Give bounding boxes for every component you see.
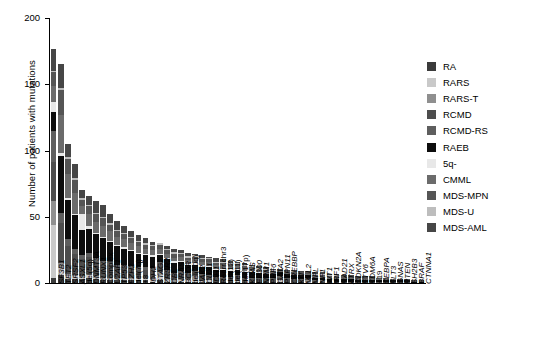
legend-swatch <box>427 110 436 119</box>
bar-segment-mds-aml <box>72 164 78 179</box>
bar-segment-mds-aml <box>65 144 71 157</box>
legend-swatch <box>427 223 436 232</box>
legend-label: MDS-AML <box>443 222 487 233</box>
bar-segment-cmml <box>128 243 134 250</box>
bar-segment-mds-aml <box>79 190 85 198</box>
bar-tet2 <box>58 64 64 283</box>
legend-item: RARS-T <box>427 90 549 106</box>
legend-item: MDS-U <box>427 204 549 220</box>
bar-segment-mds-mpn <box>58 90 64 115</box>
legend-item: MDS-AML <box>427 220 549 236</box>
bar-segment-cmml <box>51 86 57 102</box>
legend-swatch <box>427 207 436 216</box>
bar-segment-cmml <box>114 237 120 245</box>
x-tick-label: CTNNA1 <box>424 252 433 284</box>
bar-segment-raeb <box>86 229 92 253</box>
legend: RARARSRARS-TRCMDRCMD-RSRAEB5q-CMMLMDS-MP… <box>427 58 549 236</box>
bar-segment-ra <box>51 278 57 283</box>
legend-label: RAEB <box>443 142 469 153</box>
legend-item: MDS-MPN <box>427 188 549 204</box>
bar-segment-mds-aml <box>107 214 113 223</box>
legend-swatch <box>427 143 436 152</box>
legend-item: RA <box>427 58 549 74</box>
bar-segment-rcmd <box>58 223 64 263</box>
legend-swatch <box>427 191 436 200</box>
x-axis-tick-labels: SF3B1TET2SRSF2ASXL1del(5q)DNMT3ARUNX1Com… <box>50 284 430 357</box>
bar-segment-raeb <box>121 249 127 265</box>
legend-swatch <box>427 94 436 103</box>
bar-segment-mds-aml <box>51 49 57 72</box>
legend-swatch <box>427 126 436 135</box>
plot-area <box>50 18 425 283</box>
bar-segment-rars-t <box>51 201 57 225</box>
bar-segment-raeb <box>58 156 64 213</box>
bar-segment-cmml <box>121 239 127 247</box>
legend-swatch <box>427 159 436 168</box>
bar-segment-5q- <box>79 214 85 230</box>
bar-segment-mds-aml <box>114 221 120 230</box>
bar-segment-5q- <box>51 102 57 113</box>
legend-swatch <box>427 78 436 87</box>
bar-segment-raeb <box>143 255 149 267</box>
bar-segment-mds-mpn <box>51 72 57 85</box>
bar-segment-mds-mpn <box>100 218 106 226</box>
legend-item: CMML <box>427 171 549 187</box>
bar-segment-raeb <box>65 200 71 240</box>
bar-segment-mds-mpn <box>86 206 92 214</box>
bar-segment-mds-mpn <box>79 200 85 207</box>
bar-segment-cmml <box>136 246 142 253</box>
legend-item: RARS <box>427 74 549 90</box>
bar-segment-cmml <box>107 231 113 240</box>
bar-segment-mds-aml <box>86 196 92 205</box>
bar-segment-rars <box>51 225 57 278</box>
legend-label: MDS-U <box>443 206 474 217</box>
legend-label: MDS-MPN <box>443 190 488 201</box>
bar-segment-cmml <box>72 193 78 214</box>
bar-segment-mds-aml <box>93 201 99 213</box>
legend-item: RAEB <box>427 139 549 155</box>
bar-segment-cmml <box>65 174 71 198</box>
mutation-frequency-chart: Number of patients with mutations 050100… <box>0 0 554 357</box>
y-tick-label: 100 <box>0 145 40 156</box>
bar-segment-rcmd-rs <box>58 213 64 224</box>
bar-segment-mds-mpn <box>107 225 113 232</box>
legend-swatch <box>427 62 436 71</box>
bar-segment-raeb <box>72 215 78 248</box>
bar-segment-cmml <box>86 214 92 226</box>
bar-segment-mds-mpn <box>72 180 78 193</box>
bar-segment-raeb <box>79 230 85 255</box>
legend-item: RCMD <box>427 107 549 123</box>
legend-item: RCMD-RS <box>427 123 549 139</box>
bar-segment-cmml <box>58 115 64 153</box>
bar-segment-mds-mpn <box>65 159 71 175</box>
legend-swatch <box>427 175 436 184</box>
bar-segment-rcmd-rs <box>65 239 71 246</box>
bar-sf3b1 <box>51 48 57 283</box>
bar-segment-rcmd <box>51 162 57 200</box>
legend-label: RA <box>443 61 456 72</box>
bar-segment-mds-aml <box>121 226 127 233</box>
bar-segment-rcmd-rs <box>51 131 57 163</box>
bar-segment-cmml <box>100 226 106 237</box>
y-tick-label: 0 <box>0 277 40 288</box>
legend-label: RCMD-RS <box>443 125 488 136</box>
bar-segment-mds-aml <box>58 64 64 88</box>
legend-item: 5q- <box>427 155 549 171</box>
bar-segment-raeb <box>51 112 57 131</box>
legend-label: RARS-T <box>443 93 478 104</box>
bar-segment-mds-aml <box>100 205 106 217</box>
legend-label: RARS <box>443 77 469 88</box>
y-tick-label: 150 <box>0 78 40 89</box>
y-tick-label: 200 <box>0 12 40 23</box>
legend-label: CMML <box>443 174 471 185</box>
legend-label: 5q- <box>443 158 457 169</box>
y-tick-label: 50 <box>0 211 40 222</box>
bar-segment-cmml <box>79 206 85 214</box>
legend-label: RCMD <box>443 109 472 120</box>
bar-segment-cmml <box>93 222 99 233</box>
bar-segment-mds-mpn <box>93 214 99 222</box>
